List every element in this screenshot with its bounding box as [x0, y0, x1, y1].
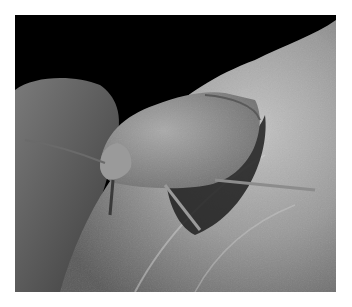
photo-scene	[15, 15, 336, 292]
photograph-shield-bug-on-leaf	[15, 15, 336, 292]
